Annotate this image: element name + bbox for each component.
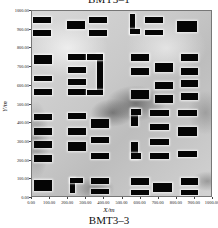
y-tick-mark	[29, 10, 31, 11]
x-tick-label: 200.00	[61, 200, 73, 205]
y-tick-label: 400.00	[17, 120, 29, 125]
building-footprint	[178, 151, 197, 157]
x-tick-label: 1000.00	[205, 200, 218, 205]
building-footprint	[89, 30, 107, 36]
y-tick-mark	[29, 47, 31, 48]
building-footprint	[181, 80, 199, 86]
x-tick-mark	[194, 197, 195, 199]
building-footprint	[131, 109, 141, 115]
building-footprint	[150, 110, 169, 116]
x-tick-mark	[31, 197, 32, 199]
building-footprint	[178, 110, 197, 116]
building-footprint	[91, 119, 109, 127]
building-footprint	[34, 141, 52, 147]
building-footprint	[91, 178, 109, 184]
y-axis-label: Y/m	[1, 101, 9, 112]
x-tick-mark	[122, 197, 123, 199]
building-footprint	[131, 178, 149, 184]
y-tick-mark	[29, 85, 31, 86]
building-footprint	[178, 127, 197, 136]
x-tick-label: 0.00	[27, 200, 35, 205]
building-footprint	[34, 114, 52, 120]
plot-area	[31, 10, 212, 197]
building-footprint	[181, 178, 199, 184]
x-tick-mark	[212, 197, 213, 199]
chart-title-bottom: BMT3–3	[0, 214, 218, 226]
building-footprint	[145, 17, 163, 23]
y-tick-mark	[29, 141, 31, 142]
x-tick-mark	[85, 197, 86, 199]
y-tick-label: 800.00	[17, 45, 29, 50]
building-footprint	[33, 17, 51, 23]
building-footprint	[150, 139, 169, 145]
building-footprint	[68, 128, 86, 134]
building-footprint	[131, 68, 149, 74]
building-footprint	[150, 124, 169, 130]
x-tick-label: 600.00	[134, 200, 146, 205]
chart-title-top: BMT3–1	[0, 0, 218, 5]
y-tick-label: 200.00	[17, 157, 29, 162]
building-footprint	[68, 67, 86, 73]
building-footprint	[34, 180, 52, 191]
y-tick-label: 700.00	[17, 64, 29, 69]
building-footprint	[177, 21, 197, 32]
building-footprint	[91, 153, 109, 159]
building-footprint	[34, 128, 52, 134]
building-footprint	[155, 82, 174, 88]
building-footprint	[67, 21, 85, 28]
building-footprint	[34, 55, 52, 63]
building-footprint	[131, 153, 141, 159]
building-footprint	[70, 178, 83, 184]
building-footprint	[181, 93, 199, 99]
building-footprint	[131, 90, 149, 99]
building-footprint	[131, 190, 149, 196]
x-tick-label: 100.00	[43, 200, 55, 205]
building-footprint	[68, 89, 86, 95]
building-footprint	[153, 183, 172, 192]
building-footprint	[155, 63, 174, 72]
y-tick-mark	[29, 160, 31, 161]
y-tick-mark	[29, 122, 31, 123]
building-footprint	[91, 189, 109, 195]
y-tick-mark	[29, 104, 31, 105]
y-tick-label: 600.00	[17, 82, 29, 87]
y-tick-label: 100.00	[17, 176, 29, 181]
y-tick-mark	[29, 178, 31, 179]
building-footprint	[91, 137, 109, 143]
building-footprint	[97, 54, 102, 91]
building-footprint	[145, 30, 163, 36]
x-tick-mark	[67, 197, 68, 199]
y-tick-label: 0.00	[21, 195, 29, 200]
building-footprint	[150, 153, 169, 159]
x-tick-mark	[158, 197, 159, 199]
x-tick-label: 900.00	[188, 200, 200, 205]
building-footprint	[34, 155, 52, 161]
building-footprint	[68, 142, 86, 150]
building-footprint	[34, 76, 52, 82]
building-footprint	[181, 54, 199, 60]
x-tick-label: 500.00	[115, 200, 127, 205]
building-footprint	[34, 89, 52, 95]
x-tick-mark	[140, 197, 141, 199]
building-footprint	[155, 95, 174, 102]
building-footprint	[87, 54, 103, 60]
y-tick-label: 500.00	[17, 101, 29, 106]
building-footprint	[68, 79, 86, 85]
x-tick-mark	[103, 197, 104, 199]
y-tick-mark	[29, 29, 31, 30]
y-tick-mark	[29, 66, 31, 67]
building-footprint	[89, 17, 107, 23]
y-tick-label: 1000.00	[15, 8, 29, 13]
x-axis-label: X/m	[0, 206, 218, 214]
building-footprint	[87, 90, 103, 96]
x-tick-mark	[49, 197, 50, 199]
y-tick-label: 300.00	[17, 138, 29, 143]
x-tick-label: 800.00	[170, 200, 182, 205]
building-footprint	[33, 30, 51, 36]
building-footprint	[181, 190, 199, 196]
y-tick-label: 900.00	[17, 26, 29, 31]
x-tick-label: 400.00	[97, 200, 109, 205]
building-footprint	[181, 68, 199, 74]
building-footprint	[131, 54, 149, 60]
building-footprint	[68, 54, 86, 60]
